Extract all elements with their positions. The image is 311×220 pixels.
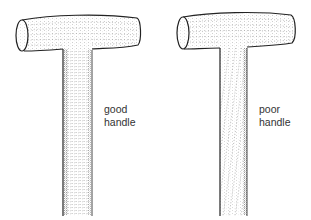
good-handle-shaft xyxy=(63,46,92,216)
poor-handle-label: poor handle xyxy=(259,103,291,129)
poor-handle-shaft xyxy=(205,45,272,216)
good-handle-label-line1: good xyxy=(104,103,136,116)
poor-handle-label-line1: poor xyxy=(259,103,291,116)
good-handle-label: good handle xyxy=(104,103,136,129)
good-handle-crossbar xyxy=(16,15,141,51)
poor-handle-crossbar xyxy=(177,13,295,49)
poor-handle-label-line2: handle xyxy=(259,116,291,129)
good-handle-label-line2: handle xyxy=(104,116,136,129)
